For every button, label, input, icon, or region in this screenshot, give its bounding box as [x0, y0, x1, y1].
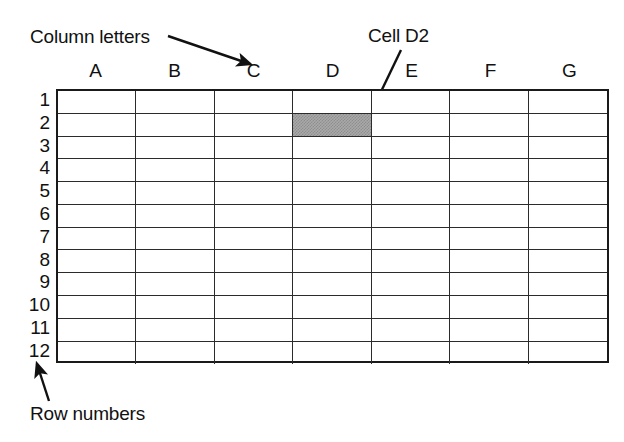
cell-C2[interactable] — [215, 114, 293, 136]
row-number-7[interactable]: 7 — [18, 226, 50, 249]
cell-B4[interactable] — [136, 159, 214, 181]
row-number-8[interactable]: 8 — [18, 249, 50, 272]
cell-D5[interactable] — [293, 182, 371, 204]
cell-B11[interactable] — [136, 319, 214, 341]
cell-A4[interactable] — [58, 159, 136, 181]
cell-D11[interactable] — [293, 319, 371, 341]
cell-D2[interactable] — [293, 114, 371, 136]
cell-B9[interactable] — [136, 273, 214, 295]
cell-A8[interactable] — [58, 250, 136, 272]
cell-F1[interactable] — [450, 91, 528, 113]
cell-B6[interactable] — [136, 205, 214, 227]
cell-C6[interactable] — [215, 205, 293, 227]
cell-A6[interactable] — [58, 205, 136, 227]
column-header-D[interactable]: D — [293, 60, 372, 82]
cell-E12[interactable] — [372, 342, 450, 365]
cell-C9[interactable] — [215, 273, 293, 295]
row-number-6[interactable]: 6 — [18, 203, 50, 226]
cell-E9[interactable] — [372, 273, 450, 295]
cell-E8[interactable] — [372, 250, 450, 272]
cell-E4[interactable] — [372, 159, 450, 181]
cell-G9[interactable] — [529, 273, 607, 295]
cell-D12[interactable] — [293, 342, 371, 365]
cell-F9[interactable] — [450, 273, 528, 295]
cell-E11[interactable] — [372, 319, 450, 341]
cell-A11[interactable] — [58, 319, 136, 341]
cell-E10[interactable] — [372, 296, 450, 318]
cell-C3[interactable] — [215, 137, 293, 159]
cell-A3[interactable] — [58, 137, 136, 159]
cell-F4[interactable] — [450, 159, 528, 181]
cell-C8[interactable] — [215, 250, 293, 272]
cell-G2[interactable] — [529, 114, 607, 136]
cell-D7[interactable] — [293, 228, 371, 250]
cell-F12[interactable] — [450, 342, 528, 365]
row-number-2[interactable]: 2 — [18, 112, 50, 135]
column-header-B[interactable]: B — [135, 60, 214, 82]
row-number-3[interactable]: 3 — [18, 135, 50, 158]
cell-E7[interactable] — [372, 228, 450, 250]
cell-B1[interactable] — [136, 91, 214, 113]
cell-B8[interactable] — [136, 250, 214, 272]
cell-F5[interactable] — [450, 182, 528, 204]
row-number-4[interactable]: 4 — [18, 157, 50, 180]
cell-C5[interactable] — [215, 182, 293, 204]
cell-B10[interactable] — [136, 296, 214, 318]
cell-B7[interactable] — [136, 228, 214, 250]
cell-G3[interactable] — [529, 137, 607, 159]
cell-F2[interactable] — [450, 114, 528, 136]
cell-G4[interactable] — [529, 159, 607, 181]
cell-B5[interactable] — [136, 182, 214, 204]
cell-D1[interactable] — [293, 91, 371, 113]
column-header-A[interactable]: A — [56, 60, 135, 82]
row-number-9[interactable]: 9 — [18, 271, 50, 294]
cell-C4[interactable] — [215, 159, 293, 181]
cell-A9[interactable] — [58, 273, 136, 295]
cell-F10[interactable] — [450, 296, 528, 318]
row-number-11[interactable]: 11 — [18, 317, 50, 340]
cell-A2[interactable] — [58, 114, 136, 136]
cell-G8[interactable] — [529, 250, 607, 272]
cell-B2[interactable] — [136, 114, 214, 136]
column-header-G[interactable]: G — [530, 60, 609, 82]
column-header-F[interactable]: F — [451, 60, 530, 82]
cell-D4[interactable] — [293, 159, 371, 181]
cell-G5[interactable] — [529, 182, 607, 204]
cell-G10[interactable] — [529, 296, 607, 318]
cell-F11[interactable] — [450, 319, 528, 341]
column-header-C[interactable]: C — [214, 60, 293, 82]
cell-F7[interactable] — [450, 228, 528, 250]
cell-E1[interactable] — [372, 91, 450, 113]
row-number-10[interactable]: 10 — [18, 294, 50, 317]
cell-E6[interactable] — [372, 205, 450, 227]
column-header-E[interactable]: E — [372, 60, 451, 82]
cell-C7[interactable] — [215, 228, 293, 250]
row-number-5[interactable]: 5 — [18, 180, 50, 203]
cell-A10[interactable] — [58, 296, 136, 318]
cell-B3[interactable] — [136, 137, 214, 159]
cell-C12[interactable] — [215, 342, 293, 365]
row-number-1[interactable]: 1 — [18, 89, 50, 112]
row-number-12[interactable]: 12 — [18, 340, 50, 363]
cell-D8[interactable] — [293, 250, 371, 272]
cell-C10[interactable] — [215, 296, 293, 318]
cell-G11[interactable] — [529, 319, 607, 341]
cell-D6[interactable] — [293, 205, 371, 227]
cell-F6[interactable] — [450, 205, 528, 227]
cell-F8[interactable] — [450, 250, 528, 272]
cell-D3[interactable] — [293, 137, 371, 159]
cell-E2[interactable] — [372, 114, 450, 136]
cell-B12[interactable] — [136, 342, 214, 365]
cell-G12[interactable] — [529, 342, 607, 365]
cell-F3[interactable] — [450, 137, 528, 159]
cell-A1[interactable] — [58, 91, 136, 113]
cell-E3[interactable] — [372, 137, 450, 159]
cell-G1[interactable] — [529, 91, 607, 113]
cell-E5[interactable] — [372, 182, 450, 204]
cell-A5[interactable] — [58, 182, 136, 204]
cell-G7[interactable] — [529, 228, 607, 250]
cell-G6[interactable] — [529, 205, 607, 227]
cell-A7[interactable] — [58, 228, 136, 250]
cell-D9[interactable] — [293, 273, 371, 295]
cell-C11[interactable] — [215, 319, 293, 341]
